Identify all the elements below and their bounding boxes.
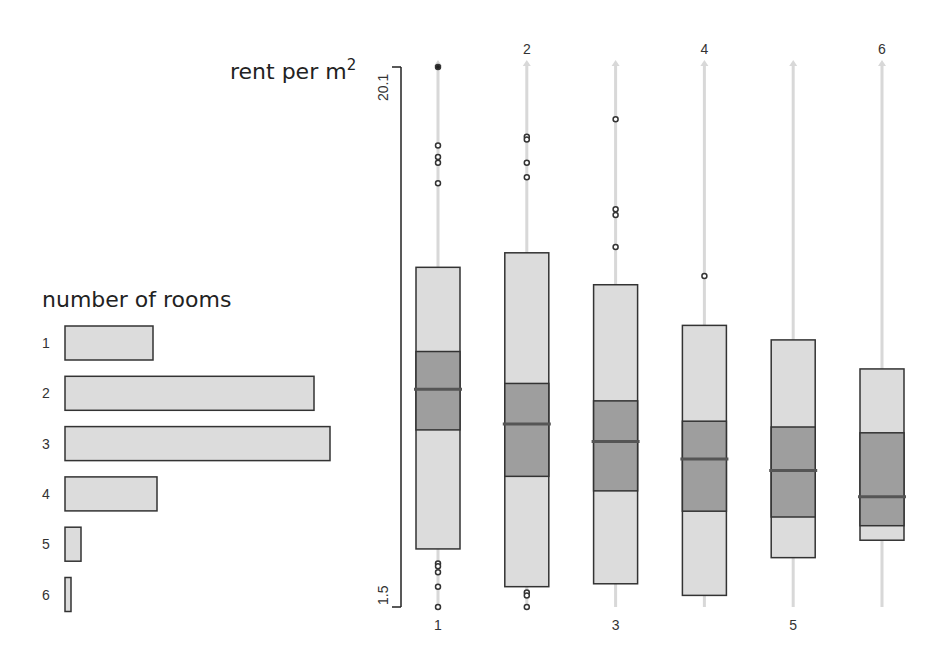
top-category-label: 6 bbox=[878, 41, 886, 57]
bar-label: 6 bbox=[42, 587, 50, 603]
outlier-point bbox=[436, 155, 441, 160]
outlier-point bbox=[436, 143, 441, 148]
outlier-point bbox=[702, 274, 707, 279]
bar-label: 5 bbox=[42, 536, 50, 552]
rent-rooms-chart: number of rooms 123456 rent per m2 20.1 … bbox=[0, 0, 947, 653]
rooms-bars: 123456 bbox=[42, 326, 330, 612]
outlier-point bbox=[524, 605, 529, 610]
boxplots: 123456 bbox=[414, 41, 906, 633]
boxplot-3: 3 bbox=[592, 60, 640, 633]
outlier-point bbox=[524, 593, 529, 598]
range-arrow-icon bbox=[700, 60, 708, 66]
bar-label: 1 bbox=[42, 335, 50, 351]
y-tick-min: 1.5 bbox=[375, 585, 391, 605]
y-axis: 20.1 1.5 bbox=[375, 67, 401, 607]
bar-label: 3 bbox=[42, 436, 50, 452]
iqr-box bbox=[860, 433, 904, 526]
outlier-point bbox=[436, 65, 441, 70]
range-arrow-icon bbox=[789, 60, 797, 66]
bar-2 bbox=[65, 376, 314, 410]
bar-3 bbox=[65, 427, 330, 461]
rooms-bar-panel: number of rooms 123456 bbox=[42, 287, 330, 612]
outlier-point bbox=[613, 207, 618, 212]
outlier-point bbox=[613, 213, 618, 218]
bar-label: 4 bbox=[42, 486, 50, 502]
boxplot-2: 2 bbox=[503, 41, 551, 610]
bar-1 bbox=[65, 326, 153, 360]
top-category-label: 4 bbox=[701, 41, 709, 57]
range-arrow-icon bbox=[523, 60, 531, 66]
outlier-point bbox=[436, 584, 441, 589]
outlier-point bbox=[524, 160, 529, 165]
boxplot-1: 1 bbox=[414, 60, 462, 633]
outlier-point bbox=[613, 245, 618, 250]
range-arrow-icon bbox=[878, 60, 886, 66]
bar-label: 2 bbox=[42, 385, 50, 401]
rent-title: rent per m2 bbox=[230, 56, 356, 84]
outlier-point bbox=[613, 117, 618, 122]
iqr-box bbox=[682, 421, 726, 511]
bottom-category-label: 5 bbox=[789, 617, 797, 633]
outlier-point bbox=[524, 137, 529, 142]
outlier-point bbox=[436, 570, 441, 575]
bottom-category-label: 1 bbox=[434, 617, 442, 633]
boxplot-4: 4 bbox=[680, 41, 728, 607]
outlier-point bbox=[436, 605, 441, 610]
range-arrow-icon bbox=[612, 60, 620, 66]
outlier-point bbox=[436, 181, 441, 186]
outlier-point bbox=[524, 175, 529, 180]
bottom-category-label: 3 bbox=[612, 617, 620, 633]
outlier-point bbox=[436, 564, 441, 569]
rooms-title: number of rooms bbox=[42, 287, 231, 312]
y-tick-max: 20.1 bbox=[375, 74, 391, 101]
bar-5 bbox=[65, 527, 81, 561]
boxplot-6: 6 bbox=[858, 41, 906, 607]
boxplot-5: 5 bbox=[769, 60, 817, 633]
top-category-label: 2 bbox=[523, 41, 531, 57]
bar-6 bbox=[65, 578, 71, 612]
rent-boxplot-panel: rent per m2 20.1 1.5 123456 bbox=[230, 41, 906, 633]
iqr-box bbox=[594, 401, 638, 491]
bar-4 bbox=[65, 477, 157, 511]
iqr-box bbox=[505, 383, 549, 476]
outlier-point bbox=[436, 160, 441, 165]
